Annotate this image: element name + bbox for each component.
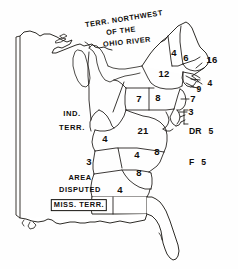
new-york-pennsylvania <box>114 66 183 110</box>
area-disputed-line-1: AREA <box>68 174 91 182</box>
ev-virginia: 21 <box>138 126 149 136</box>
ev-south-carolina: 8 <box>136 168 141 178</box>
ev-massachusetts: 16 <box>207 55 218 65</box>
mississippi-territory-label: MISS. TERR. <box>51 199 107 211</box>
ev-new-hampshire: 6 <box>183 53 188 63</box>
ev-new-jersey: 7 <box>190 94 195 104</box>
ev-connecticut: 9 <box>196 85 201 94</box>
ev-rhode-island: 4 <box>207 79 212 88</box>
bracket-row-maryland: F 5 <box>189 157 213 167</box>
bracket-labels-group: DR 5 F 5 <box>189 106 213 187</box>
ev-new-york: 12 <box>159 69 170 79</box>
bracket-abbr-f: F <box>189 157 194 167</box>
territory-label-indiana-line-2: TERR. <box>59 124 85 132</box>
ev-tennessee: 3 <box>86 157 91 167</box>
bracket-abbr-dr: DR <box>189 126 201 136</box>
ev-pennsylvania: 8 <box>155 93 160 103</box>
michigan-territory-line <box>88 52 91 120</box>
ev-ohio: 7 <box>136 94 141 104</box>
ev-vermont: 4 <box>171 48 176 58</box>
western-boundary-line <box>16 36 20 218</box>
lake-michigan <box>73 50 90 87</box>
title-pointer-line <box>113 82 124 112</box>
northern-border-outline <box>20 31 112 53</box>
historical-electoral-map: TERR. NORTHWEST OF THE OHIO RIVER IND. T… <box>0 0 238 269</box>
bracket-value-f: 5 <box>201 157 206 167</box>
territory-label-indiana-line-1: IND. <box>63 110 81 118</box>
ev-north-carolina-east: 8 <box>154 147 159 157</box>
great-lakes-region <box>85 42 142 82</box>
bracket-value-dr: 5 <box>208 126 213 136</box>
bracket-row-delaware: DR 5 <box>189 126 213 136</box>
area-disputed-line-2: DISPUTED <box>59 186 101 194</box>
ev-kentucky: 4 <box>102 134 107 144</box>
ev-north-carolina: 4 <box>134 150 139 160</box>
ev-georgia: 4 <box>117 185 122 195</box>
